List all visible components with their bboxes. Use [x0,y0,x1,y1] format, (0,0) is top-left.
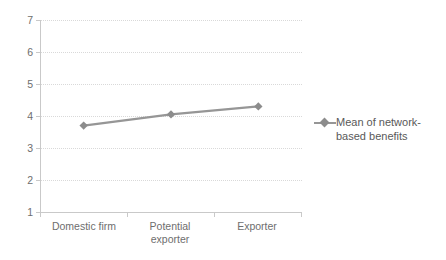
legend-label-line1: Mean of network- [336,115,421,129]
legend-marker-icon [314,116,336,130]
legend-label-line2: based benefits [336,129,421,143]
data-point-marker [254,102,262,110]
data-point-marker [167,110,175,118]
legend-label: Mean of network- based benefits [336,115,421,143]
diamond-icon [320,118,330,128]
series-markers [79,102,262,130]
chart-legend: Mean of network- based benefits [314,115,444,143]
data-point-marker [79,121,87,129]
line-chart: 7 6 5 4 3 2 1 Domestic firm Potential ex… [0,0,446,260]
